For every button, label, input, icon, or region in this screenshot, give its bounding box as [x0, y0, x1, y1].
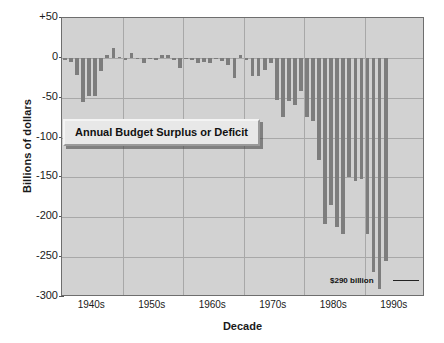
bar	[317, 58, 321, 160]
bar	[142, 58, 146, 64]
bar	[196, 58, 200, 64]
bar	[366, 58, 370, 234]
x-gridline	[183, 18, 184, 295]
bar	[354, 58, 358, 182]
y-tick-label: -250	[18, 250, 58, 261]
bar	[105, 55, 109, 58]
bar	[178, 58, 182, 68]
bar	[226, 58, 230, 65]
bar	[281, 58, 285, 117]
bar	[287, 58, 291, 101]
x-tick-label: 1960s	[199, 299, 226, 310]
bar	[118, 57, 122, 58]
bar	[329, 58, 333, 205]
bar	[99, 58, 103, 71]
y-tick-label: -50	[18, 91, 58, 102]
bar	[220, 58, 224, 61]
bar	[172, 58, 176, 60]
x-tick-label: 1980s	[320, 299, 347, 310]
bar	[63, 58, 67, 60]
y-tick-label: -200	[18, 210, 58, 221]
bar	[311, 58, 315, 121]
bar	[239, 55, 243, 57]
bar	[384, 58, 388, 261]
bar	[136, 58, 140, 60]
x-tick-label: 1950s	[138, 299, 165, 310]
bar	[214, 58, 218, 59]
bar	[323, 58, 327, 224]
x-axis-title: Decade	[61, 320, 424, 332]
bar	[208, 58, 212, 63]
bar	[347, 58, 351, 178]
peak-deficit-annotation: $290 billion	[330, 276, 374, 285]
bar	[341, 58, 345, 234]
y-gridline	[62, 257, 423, 258]
bar	[251, 58, 255, 76]
bar	[69, 58, 73, 62]
bar	[166, 55, 170, 57]
bar	[305, 58, 309, 117]
bar	[372, 58, 376, 272]
y-tick-label: -150	[18, 170, 58, 181]
bar	[93, 58, 97, 96]
bar	[190, 58, 194, 60]
bar	[160, 55, 164, 58]
bar	[293, 58, 297, 105]
bar	[263, 58, 267, 70]
y-tick-label: -300	[18, 290, 58, 301]
x-tick-label: 1970s	[259, 299, 286, 310]
bar	[269, 58, 273, 63]
bar	[87, 58, 91, 96]
x-axis-tick-labels: 1940s1950s1960s1970s1980s1990s	[61, 299, 424, 315]
annotation-leader-line	[393, 280, 419, 281]
bar	[378, 58, 382, 289]
bar	[184, 58, 188, 59]
y-tick-label: +50	[18, 11, 58, 22]
x-tick-label: 1940s	[78, 299, 105, 310]
bar	[335, 58, 339, 227]
bar	[154, 58, 158, 60]
y-axis-tick-labels: +500-50-100-150-200-250-300	[12, 0, 58, 343]
x-tick-label: 1990s	[380, 299, 407, 310]
bar	[299, 58, 303, 91]
plot-area	[61, 17, 424, 296]
bar	[75, 58, 79, 75]
bar	[233, 58, 237, 78]
chart-figure: Billions of dollars +500-50-100-150-200-…	[0, 0, 444, 343]
bar	[202, 58, 206, 62]
bar	[124, 58, 128, 60]
y-tick-mark	[59, 296, 64, 297]
bar	[112, 48, 116, 58]
bar	[245, 58, 249, 60]
bar	[360, 58, 364, 179]
bar	[257, 58, 261, 76]
bar	[130, 53, 134, 58]
chart-title-callout: Annual Budget Surplus or Deficit	[63, 119, 260, 146]
bar	[81, 58, 85, 102]
y-tick-label: 0	[18, 51, 58, 62]
y-tick-label: -100	[18, 131, 58, 142]
bar	[275, 58, 279, 100]
bar	[148, 58, 152, 59]
